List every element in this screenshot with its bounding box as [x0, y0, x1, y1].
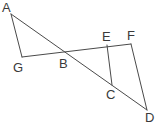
vertex-label-B: B	[59, 57, 68, 70]
vertex-label-A: A	[2, 1, 11, 14]
vertex-label-D: D	[145, 111, 154, 124]
vertex-label-F: F	[127, 29, 135, 42]
vertex-label-G: G	[13, 61, 23, 74]
vertex-label-C: C	[106, 88, 115, 101]
geometry-figure: A G B E F C D	[0, 0, 159, 126]
segment-GF	[22, 44, 131, 57]
vertex-label-E: E	[102, 30, 111, 43]
segment-EC	[107, 45, 112, 85]
geometry-canvas	[0, 0, 159, 126]
